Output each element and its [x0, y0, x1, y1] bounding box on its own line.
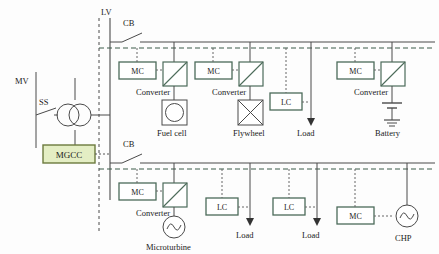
- cb-upper-label: CB: [123, 18, 135, 28]
- mc-label: MC: [131, 188, 143, 197]
- ac-source-icon: [396, 205, 418, 227]
- mc-label: MC: [207, 67, 219, 76]
- cb-lower-label: CB: [123, 139, 135, 149]
- ac-source-icon: [163, 216, 185, 238]
- converter-label: Converter: [136, 87, 170, 97]
- mgcc-block[interactable]: MGCC: [43, 145, 95, 163]
- mc-box-chp[interactable]: MC: [337, 207, 374, 224]
- load-label: Load: [297, 128, 315, 138]
- converter-label: Converter: [354, 87, 388, 97]
- lc-box-load-lower-1[interactable]: LC: [206, 198, 238, 215]
- mc-box-fuel-cell[interactable]: MC: [119, 62, 156, 79]
- lv-label: LV: [101, 7, 112, 17]
- lc-label: LC: [281, 98, 291, 107]
- microturbine-label: Microturbine: [146, 242, 191, 252]
- mc-box-microturbine[interactable]: MC: [119, 183, 156, 200]
- converter-battery[interactable]: [381, 62, 405, 86]
- microgrid-diagram: MV SS MV SS LV MGCC: [0, 0, 439, 254]
- converter-label: Converter: [136, 208, 170, 218]
- mc-box-battery[interactable]: MC: [337, 62, 374, 79]
- fuel-cell-icon: [162, 100, 187, 125]
- converter-microturbine[interactable]: [163, 183, 187, 207]
- mv-feed: MV SS: [10, 60, 56, 150]
- load-label: Load: [236, 230, 254, 240]
- lc-box-load-lower-2[interactable]: LC: [273, 198, 305, 215]
- mc-label: MC: [349, 67, 361, 76]
- mc-label: MC: [131, 67, 143, 76]
- load-label: Load: [302, 230, 320, 240]
- converter-label: Converter: [212, 87, 246, 97]
- flywheel-label: Flywheel: [233, 128, 265, 138]
- ss-label-visible: SS: [39, 97, 49, 107]
- lc-label: LC: [284, 203, 294, 212]
- battery-label: Battery: [375, 128, 401, 138]
- lc-box-load-upper[interactable]: LC: [270, 93, 302, 110]
- mgcc-label: MGCC: [56, 150, 83, 160]
- fuel-cell-label: Fuel cell: [157, 128, 187, 138]
- converter-flywheel[interactable]: [239, 62, 263, 86]
- converter-fuel-cell[interactable]: [163, 62, 187, 86]
- mc-label: MC: [349, 212, 361, 221]
- chp-label: CHP: [395, 233, 412, 243]
- mv-label-visible: MV: [15, 76, 30, 86]
- mc-box-flywheel[interactable]: MC: [195, 62, 232, 79]
- flywheel-icon: [238, 100, 263, 125]
- lc-label: LC: [217, 203, 227, 212]
